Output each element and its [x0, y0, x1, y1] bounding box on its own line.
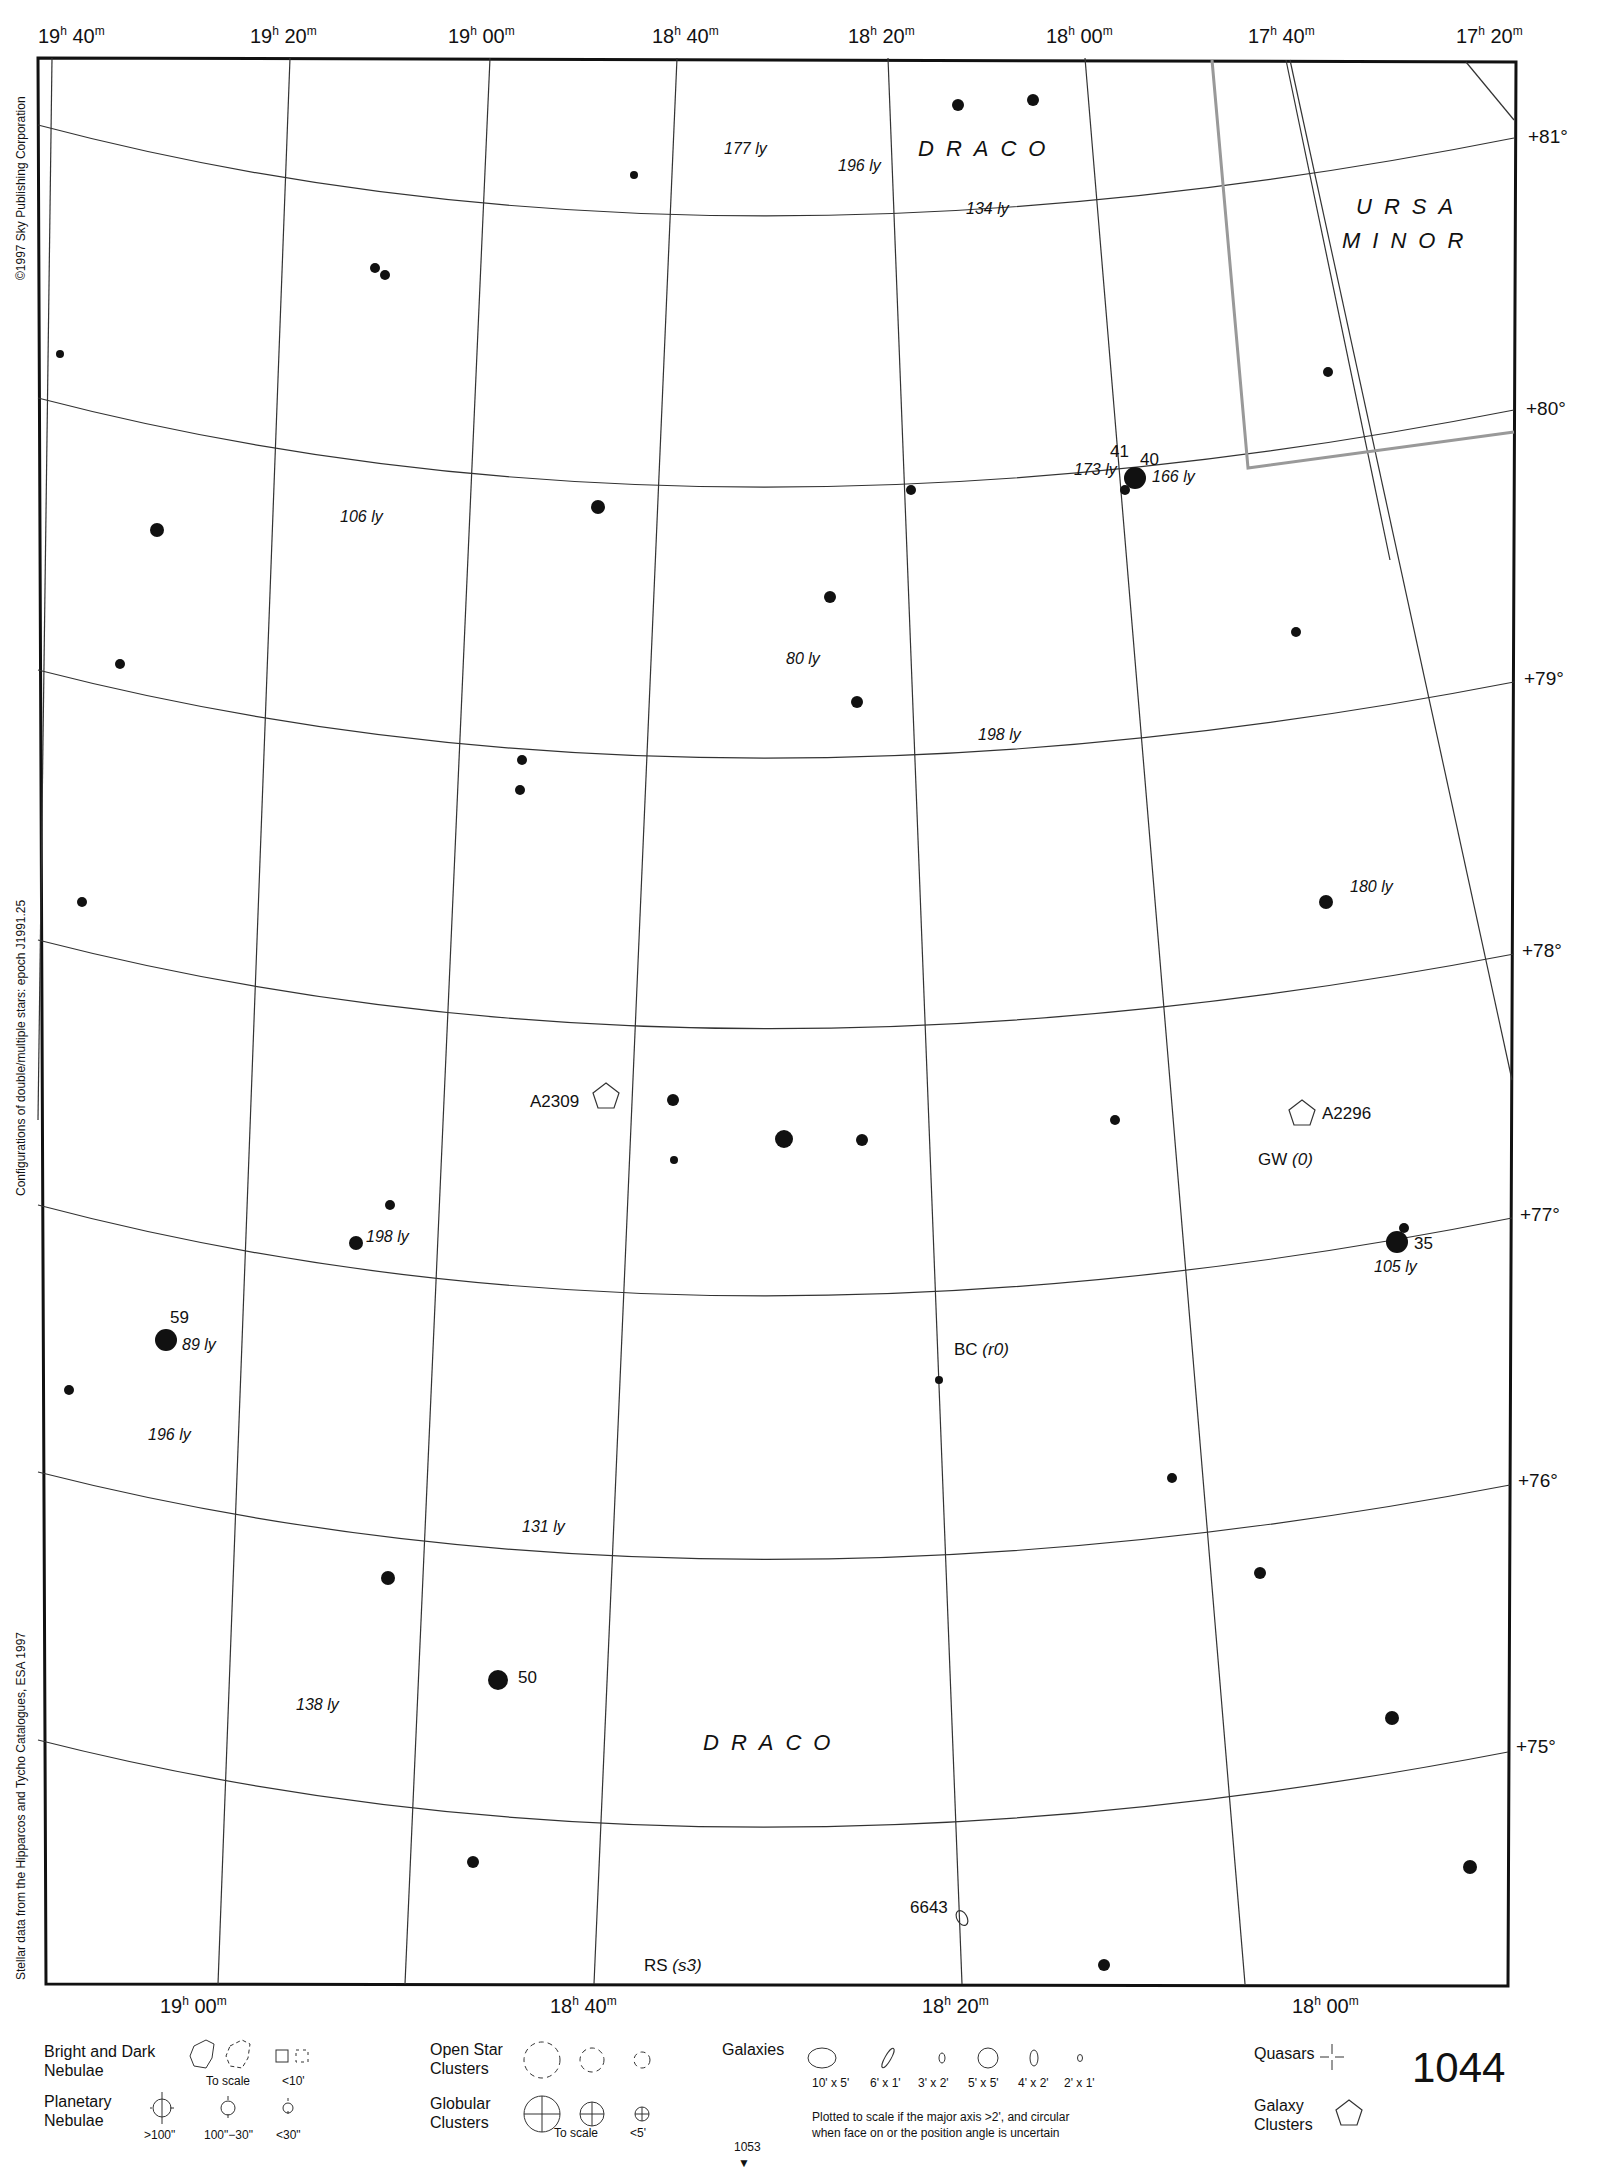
distance-label: 106 ly — [340, 508, 383, 526]
ra-label-top: 18h 00m — [1046, 24, 1113, 48]
legend-galaxy-clusters-title: GalaxyClusters — [1254, 2096, 1313, 2134]
star-label: 50 — [518, 1668, 537, 1688]
legend-size: 100"−30" — [204, 2128, 253, 2142]
galaxy-note: when face on or the position angle is un… — [812, 2126, 1060, 2140]
distance-label: 196 ly — [838, 157, 881, 175]
galaxy-note: Plotted to scale if the major axis >2', … — [812, 2110, 1069, 2124]
star-chart — [0, 0, 1604, 2182]
ra-label-top: 17h 40m — [1248, 24, 1315, 48]
ra-label-bottom: 19h 00m — [160, 1994, 227, 2018]
legend-small-size: <10' — [282, 2074, 305, 2088]
configurations-note: Configurations of double/multiple stars:… — [14, 900, 28, 1196]
distance-label: 177 ly — [724, 140, 767, 158]
galaxy-cluster-icon — [1334, 2098, 1364, 2128]
legend-globular-title: GlobularClusters — [430, 2094, 490, 2132]
ra-label-top: 18h 40m — [652, 24, 719, 48]
variable-star-label: GW (0) — [1258, 1150, 1313, 1170]
constellation-label: URSA — [1356, 194, 1465, 220]
distance-label: 105 ly — [1374, 1258, 1417, 1276]
variable-star-label: RS (s3) — [644, 1956, 702, 1976]
galaxy-label: 6643 — [910, 1898, 948, 1918]
distance-label: 138 ly — [296, 1696, 339, 1714]
ra-label-top: 18h 20m — [848, 24, 915, 48]
page-number: 1044 — [1412, 2044, 1505, 2092]
open-cluster-icon — [520, 2038, 660, 2082]
galaxy-cluster-label: A2296 — [1322, 1104, 1371, 1124]
legend-quasars-title: Quasars — [1254, 2044, 1314, 2063]
star-label: 40 — [1140, 450, 1159, 470]
ra-label-top: 19h 20m — [250, 24, 317, 48]
nebula-icon — [186, 2038, 316, 2078]
distance-label: 89 ly — [182, 1336, 216, 1354]
legend-to-scale: To scale — [206, 2074, 250, 2088]
legend-planetary-title: PlanetaryNebulae — [44, 2092, 112, 2130]
galaxy-icon — [770, 2040, 1180, 2076]
legend-size: 6' x 1' — [870, 2076, 901, 2090]
legend-size: <30" — [276, 2128, 301, 2142]
ra-label-bottom: 18h 00m — [1292, 1994, 1359, 2018]
distance-label: 198 ly — [366, 1228, 409, 1246]
ra-label-top: 17h 20m — [1456, 24, 1523, 48]
star-label: 35 — [1414, 1234, 1433, 1254]
distance-label: 198 ly — [978, 726, 1021, 744]
constellation-label: DRACO — [918, 136, 1057, 162]
adjacent-chart-number[interactable]: 1053 — [734, 2140, 761, 2154]
ra-label-bottom: 18h 20m — [922, 1994, 989, 2018]
dec-label: +80° — [1526, 398, 1566, 420]
legend-to-scale: To scale — [554, 2126, 598, 2140]
dec-label: +79° — [1524, 668, 1564, 690]
variable-star-label: BC (r0) — [954, 1340, 1009, 1360]
constellation-label: MINOR — [1342, 228, 1475, 254]
distance-label: 80 ly — [786, 650, 820, 668]
constellation-label: DRACO — [703, 1730, 842, 1756]
stellar-data-credit: Stellar data from the Hipparcos and Tych… — [14, 1632, 28, 1980]
distance-label: 131 ly — [522, 1518, 565, 1536]
dec-label: +76° — [1518, 1470, 1558, 1492]
legend-size: >100" — [144, 2128, 175, 2142]
legend-nebulae-title: Bright and DarkNebulae — [44, 2042, 155, 2080]
quasar-icon — [1320, 2044, 1344, 2070]
dec-label: +75° — [1516, 1736, 1556, 1758]
dec-label: +81° — [1528, 126, 1568, 148]
legend-open-clusters-title: Open StarClusters — [430, 2040, 503, 2078]
legend-size: 3' x 2' — [918, 2076, 949, 2090]
ra-label-top: 19h 40m — [38, 24, 105, 48]
legend-size: 4' x 2' — [1018, 2076, 1049, 2090]
ra-label-bottom: 18h 40m — [550, 1994, 617, 2018]
distance-label: 166 ly — [1152, 468, 1195, 486]
planetary-nebula-icon — [150, 2088, 310, 2132]
distance-label: 173 ly — [1074, 461, 1117, 479]
legend-size: 10' x 5' — [812, 2076, 849, 2090]
ra-label-top: 19h 00m — [448, 24, 515, 48]
distance-label: 196 ly — [148, 1426, 191, 1444]
distance-label: 134 ly — [966, 200, 1009, 218]
star-label: 59 — [170, 1308, 189, 1328]
copyright-text: ©1997 Sky Publishing Corporation — [14, 96, 28, 280]
legend-size: 5' x 5' — [968, 2076, 999, 2090]
star-label: 41 — [1110, 442, 1129, 462]
down-arrow-icon[interactable]: ▼ — [738, 2156, 750, 2170]
legend-size: 2' x 1' — [1064, 2076, 1095, 2090]
galaxy-cluster-label: A2309 — [530, 1092, 579, 1112]
distance-label: 180 ly — [1350, 878, 1393, 896]
dec-label: +77° — [1520, 1204, 1560, 1226]
legend-small-size: <5' — [630, 2126, 646, 2140]
dec-label: +78° — [1522, 940, 1562, 962]
